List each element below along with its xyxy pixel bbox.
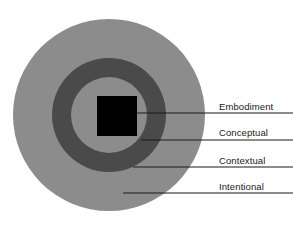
layer-label-embodiment: Embodiment: [219, 101, 273, 112]
concentric-layers-diagram: Embodiment Conceptual Contextual Intenti…: [0, 0, 293, 230]
layer-square-embodiment: [97, 96, 137, 136]
layer-label-contextual: Contextual: [219, 155, 265, 166]
layer-label-intentional: Intentional: [219, 181, 264, 192]
layer-label-conceptual: Conceptual: [219, 127, 268, 138]
diagram-canvas: [0, 0, 293, 230]
